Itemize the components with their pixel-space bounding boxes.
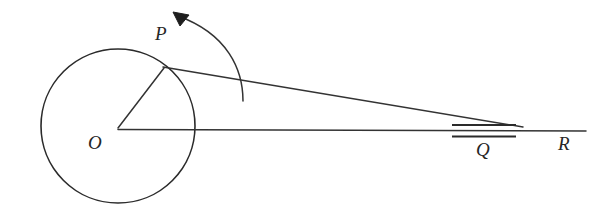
circle-shape xyxy=(41,49,195,203)
rotation-arc xyxy=(178,16,243,101)
label-center-o: O xyxy=(88,133,102,152)
label-intersection-q: Q xyxy=(476,140,490,159)
label-tangent-point-p: P xyxy=(155,24,167,43)
radius-segment-op xyxy=(118,68,164,128)
figure-canvas xyxy=(0,0,609,211)
geometry-figure: O P Q R xyxy=(0,0,609,211)
baseline-segment-or xyxy=(118,130,586,132)
tangent-segment-pq xyxy=(163,67,523,127)
label-ray-end-r: R xyxy=(558,134,570,153)
